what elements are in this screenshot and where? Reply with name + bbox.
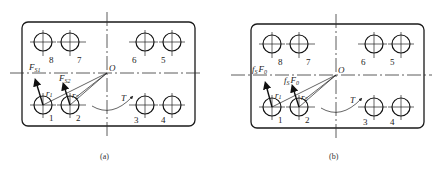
caption-a: (a) [100, 152, 109, 161]
origin-label: O [338, 65, 345, 75]
torque-label: T [350, 95, 356, 105]
bolt-group-diagram: 8 7 6 5 1 2 3 4 O T FS1 FS2 r1 r2 (a) [0, 0, 437, 175]
panel-b: 8 7 6 5 1 2 3 4 O T fSF0 fSF0 r1 r2 (b) [231, 14, 432, 161]
bolt-hole-5 [159, 30, 185, 56]
force-arrow-1 [266, 85, 272, 107]
force-label-fsf0-2: fSF0 [284, 75, 299, 86]
radius-label-r2: r2 [301, 92, 308, 102]
hole-label-8: 8 [278, 57, 283, 67]
force-label-fs1: FS1 [28, 62, 41, 73]
radius-line-r1 [272, 75, 336, 107]
hole-label-3: 3 [134, 115, 139, 125]
hole-label-5: 5 [390, 57, 395, 67]
hole-label-7: 7 [77, 55, 82, 65]
bolt-hole-8 [259, 32, 285, 58]
bolt-hole-8 [30, 30, 56, 56]
force-label-fs2: FS2 [58, 73, 71, 84]
radius-line-aux [304, 75, 336, 100]
hole-label-2: 2 [76, 113, 81, 123]
caption-b: (b) [329, 152, 339, 161]
radius-line-aux [75, 73, 107, 98]
panel-a: 8 7 6 5 1 2 3 4 O T FS1 FS2 r1 r2 (a) [10, 12, 203, 161]
torque-label: T [121, 93, 127, 103]
radius-label-r1: r1 [275, 90, 282, 100]
hole-label-5: 5 [161, 55, 166, 65]
hole-label-6: 6 [361, 57, 366, 67]
bolt-hole-6 [358, 32, 387, 58]
force-arrow-1 [36, 82, 43, 105]
hole-label-4: 4 [390, 117, 395, 127]
origin-label: O [109, 63, 116, 73]
radius-label-r1: r1 [46, 88, 53, 98]
bolt-hole-6 [129, 30, 158, 56]
hole-label-4: 4 [161, 115, 166, 125]
hole-label-3: 3 [363, 117, 368, 127]
hole-label-1: 1 [49, 113, 54, 123]
hole-label-2: 2 [305, 115, 310, 125]
hole-label-6: 6 [132, 55, 137, 65]
bolt-hole-7 [57, 30, 86, 56]
radius-line-r1 [43, 73, 107, 105]
bolt-hole-5 [388, 32, 414, 58]
bolt-hole-7 [286, 32, 315, 58]
force-label-fsf0-1: fSF0 [252, 64, 267, 75]
hole-label-8: 8 [49, 55, 54, 65]
hole-label-7: 7 [306, 57, 311, 67]
radius-label-r2: r2 [72, 90, 79, 100]
hole-label-1: 1 [278, 115, 283, 125]
